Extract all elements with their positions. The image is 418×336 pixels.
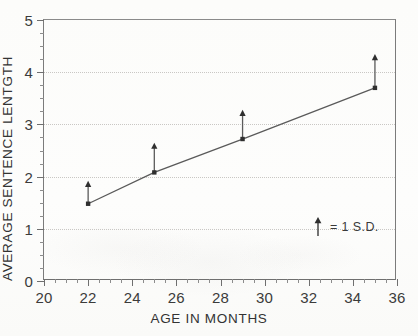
y-tick-minor: [40, 190, 44, 191]
x-tick-minor: [143, 279, 144, 283]
y-axis-title-text: AVERAGE SENTENCE LENTGTH: [1, 55, 16, 280]
x-tick-minor: [243, 279, 244, 283]
x-tick-minor: [121, 279, 122, 283]
y-tick-label: 2: [24, 168, 33, 185]
x-tick-minor: [386, 279, 387, 283]
data-point-group: [151, 143, 157, 175]
y-tick-major: [37, 229, 44, 230]
y-tick-minor: [40, 216, 44, 217]
data-series-layer: [44, 20, 397, 281]
x-tick-label: 28: [212, 289, 229, 306]
y-tick-minor: [40, 151, 44, 152]
y-tick-major: [37, 177, 44, 178]
x-tick-minor: [99, 279, 100, 283]
x-tick-label: 36: [388, 289, 405, 306]
x-tick-minor: [342, 279, 343, 283]
y-tick-major: [37, 281, 44, 282]
grid-line: [44, 177, 395, 178]
plot-area: 012345 202224262830323436: [43, 19, 396, 280]
x-tick-major: [88, 279, 89, 286]
legend-label: = 1 S.D.: [330, 220, 379, 234]
x-tick-minor: [320, 279, 321, 283]
x-tick-minor: [187, 279, 188, 283]
y-tick-major: [37, 72, 44, 73]
data-point-marker: [152, 170, 156, 174]
error-bar-legend: = 1 S.D.: [313, 217, 379, 237]
x-tick-label: 20: [35, 289, 52, 306]
y-tick-minor: [40, 268, 44, 269]
x-tick-label: 30: [256, 289, 273, 306]
x-tick-major: [397, 279, 398, 286]
x-tick-minor: [66, 279, 67, 283]
data-point-marker: [240, 137, 244, 141]
x-tick-label: 24: [124, 289, 141, 306]
x-tick-major: [221, 279, 222, 286]
x-tick-minor: [165, 279, 166, 283]
y-tick-minor: [40, 46, 44, 47]
y-tick-minor: [40, 33, 44, 34]
y-tick-minor: [40, 98, 44, 99]
y-tick-major: [37, 124, 44, 125]
x-axis-title: AGE IN MONTHS: [0, 311, 418, 326]
x-tick-minor: [331, 279, 332, 283]
data-point-marker: [86, 202, 90, 206]
error-bar-arrowhead: [239, 110, 245, 116]
y-tick-minor: [40, 137, 44, 138]
y-tick-minor: [40, 242, 44, 243]
y-tick-minor: [40, 203, 44, 204]
error-bar-arrowhead: [372, 54, 378, 60]
data-point-group: [85, 181, 91, 206]
x-tick-major: [309, 279, 310, 286]
grid-line: [44, 124, 395, 125]
up-arrow-icon: [313, 217, 323, 237]
x-tick-minor: [209, 279, 210, 283]
x-tick-label: 32: [300, 289, 317, 306]
y-tick-minor: [40, 85, 44, 86]
data-point-marker: [373, 86, 377, 90]
x-tick-minor: [375, 279, 376, 283]
x-tick-major: [132, 279, 133, 286]
x-tick-label: 26: [168, 289, 185, 306]
x-tick-major: [44, 279, 45, 286]
y-tick-label: 1: [24, 220, 33, 237]
x-tick-minor: [276, 279, 277, 283]
y-tick-major: [37, 20, 44, 21]
x-tick-minor: [55, 279, 56, 283]
x-tick-major: [176, 279, 177, 286]
x-tick-major: [265, 279, 266, 286]
y-tick-minor: [40, 164, 44, 165]
y-tick-label: 3: [24, 116, 33, 133]
error-bar-arrowhead: [85, 181, 91, 187]
error-bar-arrowhead: [151, 143, 157, 149]
chart-screenshot: AVERAGE SENTENCE LENTGTH AGE IN MONTHS 0…: [0, 0, 418, 336]
y-axis-title: AVERAGE SENTENCE LENTGTH: [0, 0, 19, 336]
x-tick-minor: [254, 279, 255, 283]
x-tick-minor: [287, 279, 288, 283]
y-tick-minor: [40, 111, 44, 112]
x-tick-minor: [198, 279, 199, 283]
x-tick-major: [353, 279, 354, 286]
series-line: [88, 88, 375, 204]
grid-line: [44, 72, 395, 73]
x-tick-minor: [298, 279, 299, 283]
y-tick-label: 0: [24, 273, 33, 290]
x-tick-minor: [77, 279, 78, 283]
y-tick-label: 4: [24, 64, 33, 81]
y-tick-minor: [40, 255, 44, 256]
x-tick-minor: [110, 279, 111, 283]
x-tick-minor: [364, 279, 365, 283]
x-tick-minor: [232, 279, 233, 283]
x-tick-minor: [154, 279, 155, 283]
x-tick-label: 34: [344, 289, 361, 306]
y-tick-label: 5: [24, 12, 33, 29]
y-tick-minor: [40, 59, 44, 60]
x-tick-label: 22: [80, 289, 97, 306]
data-point-group: [239, 110, 245, 141]
